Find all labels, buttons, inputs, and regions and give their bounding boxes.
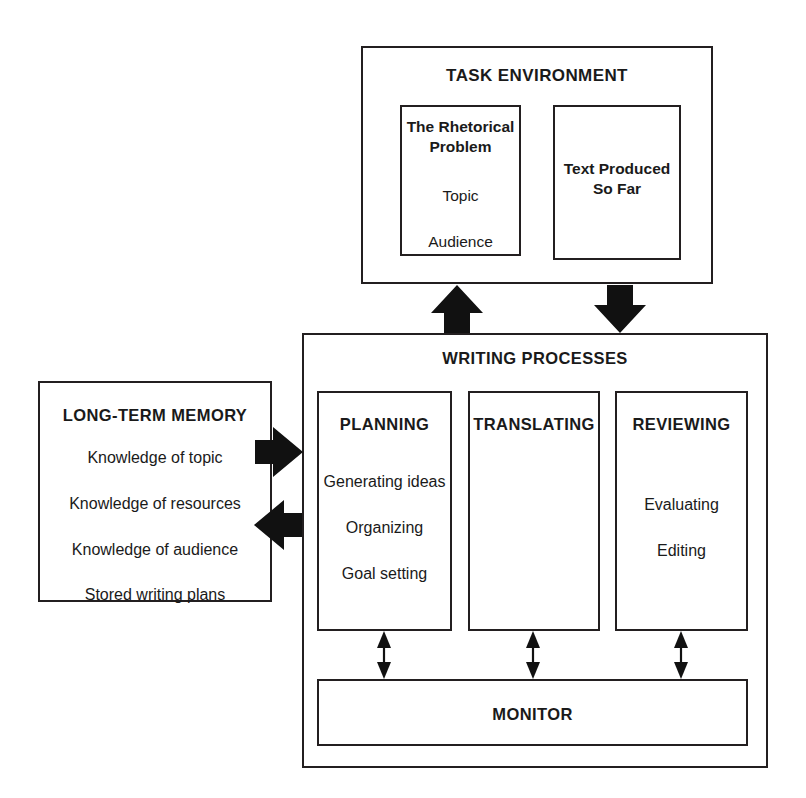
task-environment-heading: TASK ENVIRONMENT bbox=[363, 66, 711, 86]
monitor-heading: MONITOR bbox=[319, 705, 746, 724]
text-produced-title-line1: Text Produced bbox=[555, 160, 679, 178]
monitor-box: MONITOR bbox=[317, 679, 748, 746]
diagram-canvas: TASK ENVIRONMENT The Rhetorical Problem … bbox=[0, 0, 806, 798]
text-produced-so-far-box: Text Produced So Far bbox=[553, 105, 681, 260]
rhetorical-problem-title-line2: Problem bbox=[402, 138, 519, 156]
reviewing-item-0: Evaluating bbox=[617, 496, 746, 514]
planning-box: PLANNING Generating ideas Organizing Goa… bbox=[317, 391, 452, 631]
long-term-memory-heading: LONG-TERM MEMORY bbox=[40, 406, 270, 425]
translating-heading: TRANSLATING bbox=[470, 415, 598, 434]
rhetorical-problem-item-audience: Audience bbox=[402, 233, 519, 251]
planning-item-1: Organizing bbox=[319, 519, 450, 537]
reviewing-heading: REVIEWING bbox=[617, 415, 746, 434]
long-term-memory-item-0: Knowledge of topic bbox=[40, 449, 270, 467]
rhetorical-problem-box: The Rhetorical Problem Topic Audience bbox=[400, 105, 521, 256]
reviewing-item-1: Editing bbox=[617, 542, 746, 560]
planning-heading: PLANNING bbox=[319, 415, 450, 434]
rhetorical-problem-title-line1: The Rhetorical bbox=[402, 118, 519, 136]
writing-processes-heading: WRITING PROCESSES bbox=[304, 349, 766, 368]
task-environment-to-writing-processes-down-arrow-icon bbox=[594, 285, 646, 333]
long-term-memory-item-3: Stored writing plans bbox=[40, 586, 270, 604]
long-term-memory-box: LONG-TERM MEMORY Knowledge of topic Know… bbox=[38, 381, 272, 602]
planning-item-0: Generating ideas bbox=[319, 473, 450, 491]
planning-item-2: Goal setting bbox=[319, 565, 450, 583]
translating-box: TRANSLATING bbox=[468, 391, 600, 631]
rhetorical-problem-item-topic: Topic bbox=[402, 187, 519, 205]
text-produced-title-line2: So Far bbox=[555, 180, 679, 198]
reviewing-box: REVIEWING Evaluating Editing bbox=[615, 391, 748, 631]
long-term-memory-item-2: Knowledge of audience bbox=[40, 541, 270, 559]
long-term-memory-item-1: Knowledge of resources bbox=[40, 495, 270, 513]
writing-processes-to-task-environment-up-arrow-icon bbox=[431, 285, 483, 333]
